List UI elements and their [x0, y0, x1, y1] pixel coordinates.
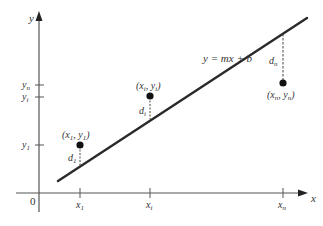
svg-text:y1: y1 [21, 139, 30, 152]
origin-label: 0 [30, 195, 36, 207]
regression-diagram: y x 0 yn yi y1 x1 xi xn y = mx + b (x1, … [0, 0, 323, 226]
data-point-n: (xn, yn) dn [267, 34, 295, 102]
point-dot-icon [76, 141, 83, 148]
data-point-i: (xi, yi) di [136, 80, 161, 119]
y-tick-1: y1 [21, 139, 44, 152]
x-tick-i: xi [145, 188, 152, 212]
x-axis-arrow-icon [298, 190, 308, 197]
svg-text:xi: xi [145, 199, 152, 212]
y-axis-arrow-icon [36, 11, 43, 21]
svg-text:di: di [139, 105, 146, 118]
svg-text:x1: x1 [75, 199, 84, 212]
x-tick-1: x1 [75, 188, 84, 212]
line-equation-label: y = mx + b [202, 52, 253, 64]
x-tick-n: xn [277, 188, 286, 212]
x-axis [16, 190, 308, 197]
svg-text:xn: xn [277, 199, 286, 212]
point-dot-icon [146, 92, 153, 99]
y-axis-label: y [28, 12, 34, 24]
svg-text:(xn, yn): (xn, yn) [267, 89, 295, 102]
svg-text:d1: d1 [68, 152, 77, 165]
svg-text:yi: yi [21, 91, 28, 104]
y-axis [36, 11, 43, 212]
svg-text:(xi, yi): (xi, yi) [136, 80, 161, 93]
y-tick-i: yi [21, 91, 44, 104]
x-axis-label: x [310, 192, 316, 204]
point-dot-icon [279, 79, 286, 86]
svg-text:(x1, y1): (x1, y1) [62, 129, 90, 142]
svg-text:dn: dn [269, 55, 278, 68]
